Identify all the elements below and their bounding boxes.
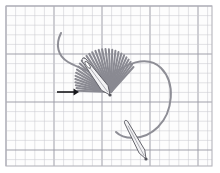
needle-point — [144, 157, 147, 160]
needle-point — [108, 93, 111, 96]
embroidery-diagram-figure — [0, 0, 220, 173]
diagram-canvas — [0, 0, 220, 173]
